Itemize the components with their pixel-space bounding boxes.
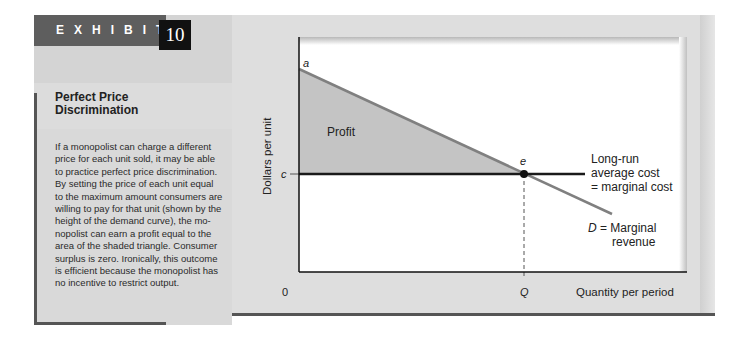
equilibrium-point-e: [520, 170, 528, 178]
q-label: Q: [520, 286, 529, 298]
y-axis-label: Dollars per unit: [261, 117, 273, 195]
plot-right-shadow: [679, 37, 687, 272]
demand-label-line1: D = Marginal: [588, 221, 656, 235]
point-a-label: a: [303, 57, 309, 69]
c-label: c: [281, 168, 287, 180]
chart-svg: a e Profit c Q 0 Quantity per period Dol…: [0, 0, 742, 338]
point-e-label: e: [520, 155, 526, 167]
origin-label: 0: [282, 286, 288, 298]
cost-label-line3: = marginal cost: [591, 180, 673, 194]
x-axis-label: Quantity per period: [576, 286, 674, 298]
cost-label-line2: average cost: [591, 166, 660, 180]
cost-label-line1: Long-run: [591, 152, 639, 166]
plot-top-shadow: [299, 37, 687, 45]
profit-label: Profit: [327, 125, 356, 139]
demand-label-line2: revenue: [612, 235, 656, 249]
